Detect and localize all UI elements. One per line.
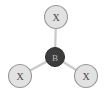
molecule-diagram: X X X B bbox=[0, 0, 106, 92]
ligand-bottom-right-label: X bbox=[82, 71, 90, 82]
atom-ligand-bottom-right: X bbox=[75, 65, 98, 88]
atom-ligand-top: X bbox=[45, 6, 68, 29]
atom-ligand-bottom-left: X bbox=[9, 65, 32, 88]
center-atom-label: B bbox=[52, 53, 58, 63]
ligand-bottom-left-label: X bbox=[16, 71, 24, 82]
molecule-canvas: X X X B bbox=[0, 0, 106, 92]
ligand-top-label: X bbox=[52, 12, 60, 23]
atom-center: B bbox=[46, 48, 65, 67]
